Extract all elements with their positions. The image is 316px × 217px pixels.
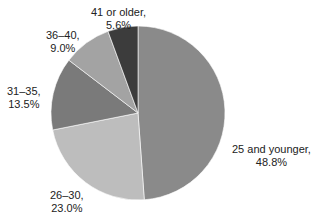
label-value: 13.5% bbox=[7, 98, 41, 111]
label-value: 5.6% bbox=[91, 19, 146, 32]
label-value: 9.0% bbox=[46, 42, 80, 55]
label-name: 36–40, bbox=[46, 29, 80, 42]
label-value: 48.8% bbox=[232, 156, 311, 169]
label-name: 41 or older, bbox=[91, 6, 146, 19]
label-name: 25 and younger, bbox=[232, 143, 311, 156]
label-value: 23.0% bbox=[50, 202, 84, 215]
label-41-or-older: 41 or older, 5.6% bbox=[91, 6, 146, 32]
label-36-40: 36–40, 9.0% bbox=[46, 29, 80, 55]
pie-slice-25-and-younger bbox=[138, 26, 225, 200]
label-name: 26–30, bbox=[50, 189, 84, 202]
label-31-35: 31–35, 13.5% bbox=[7, 85, 41, 111]
label-26-30: 26–30, 23.0% bbox=[50, 189, 84, 215]
label-25-and-younger: 25 and younger, 48.8% bbox=[232, 143, 311, 169]
label-name: 31–35, bbox=[7, 85, 41, 98]
